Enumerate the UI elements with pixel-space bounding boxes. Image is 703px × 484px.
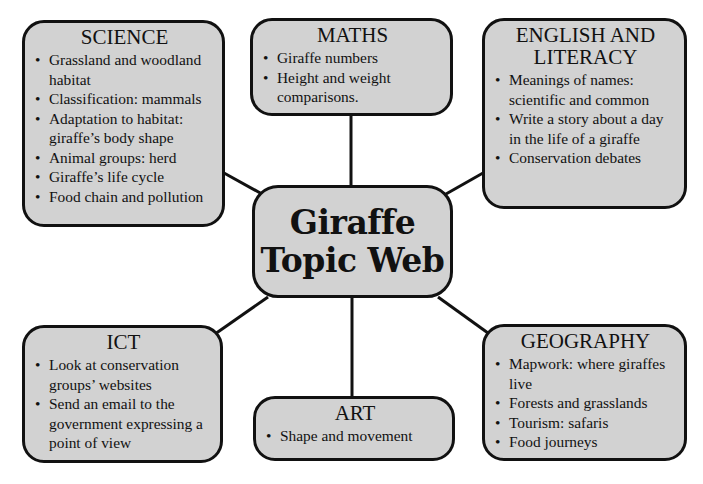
list-item: Send an email to the government expressi… [35,394,212,453]
art-list: Shape and movement [266,426,444,446]
art-title: ART [266,402,444,424]
geography-title: GEOGRAPHY [495,330,676,352]
list-item: Conservation debates [495,148,676,168]
science-title: SCIENCE [35,26,214,48]
english-title-line1: ENGLISH AND [495,24,676,46]
science-node: SCIENCE Grassland and woodland habitat C… [22,20,225,227]
list-item: Giraffe numbers [263,48,442,68]
list-item: Look at conservation groups’ websites [35,355,212,394]
list-item: Forests and grasslands [495,393,676,413]
maths-node: MATHS Giraffe numbers Height and weight … [250,18,453,116]
list-item: Mapwork: where giraffes live [495,354,676,393]
ict-list: Look at conservation groups’ websites Se… [35,355,212,453]
maths-list: Giraffe numbers Height and weight compar… [263,48,442,107]
center-title-line2: Topic Web [261,242,445,280]
maths-title: MATHS [263,24,442,46]
geography-node: GEOGRAPHY Mapwork: where giraffes live F… [482,324,687,461]
ict-title: ICT [35,331,212,353]
science-list: Grassland and woodland habitat Classific… [35,50,214,206]
center-title-line1: Giraffe [261,204,445,242]
list-item: Giraffe’s life cycle [35,167,214,187]
list-item: Food chain and pollution [35,187,214,207]
list-item: Grassland and woodland habitat [35,50,214,89]
english-title-line2: LITERACY [495,46,676,68]
ict-node: ICT Look at conservation groups’ website… [22,325,223,463]
english-list: Meanings of names: scientific and common… [495,70,676,168]
list-item: Meanings of names: scientific and common [495,70,676,109]
list-item: Tourism: safaris [495,413,676,433]
connector-english [446,173,483,194]
english-title: ENGLISH AND LITERACY [495,24,676,68]
list-item: Adaptation to habitat: giraffe’s body sh… [35,109,214,148]
connector-science [224,173,262,194]
geography-list: Mapwork: where giraffes live Forests and… [495,354,676,452]
center-title: Giraffe Topic Web [261,204,445,280]
connector-ict [215,297,268,334]
list-item: Write a story about a day in the life of… [495,109,676,148]
connector-geography [438,297,488,333]
english-node: ENGLISH AND LITERACY Meanings of names: … [482,18,687,209]
list-item: Shape and movement [266,426,444,446]
list-item: Animal groups: herd [35,148,214,168]
list-item: Classification: mammals [35,89,214,109]
center-node: Giraffe Topic Web [252,185,453,298]
list-item: Height and weight comparisons. [263,68,442,107]
art-node: ART Shape and movement [253,396,455,461]
list-item: Food journeys [495,432,676,452]
